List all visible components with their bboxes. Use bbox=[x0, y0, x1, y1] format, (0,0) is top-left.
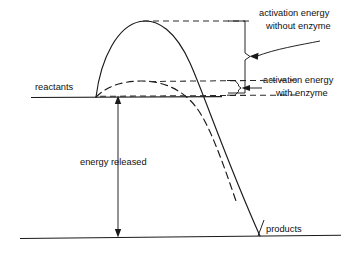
reactant-level-guideline bbox=[100, 95, 300, 96]
products-label: products bbox=[266, 224, 302, 234]
reactants-label: reactants bbox=[35, 82, 74, 92]
activation-curve-without-enzyme bbox=[96, 21, 260, 236]
energy-released-arrowhead-down bbox=[115, 229, 121, 238]
products-baseline bbox=[20, 235, 341, 238]
leader-arrow-without-enzyme bbox=[256, 41, 320, 57]
reaction-energy-profile-diagram: reactants products energy released activ… bbox=[0, 0, 359, 253]
leader-arrowhead-without-enzyme bbox=[250, 53, 259, 60]
bracket-activation-energy-without-enzyme bbox=[228, 21, 250, 93]
activation-energy-with-enzyme-label-line2: with enzyme bbox=[275, 88, 328, 98]
activation-energy-without-enzyme-label-line1: activation energy bbox=[259, 8, 330, 18]
energy-released-label: energy released bbox=[80, 157, 147, 167]
reactants-baseline bbox=[31, 97, 222, 98]
energy-diagram-container: reactants products energy released activ… bbox=[0, 0, 359, 253]
products-label-leader bbox=[258, 220, 264, 236]
activation-energy-without-enzyme-label-line2: without enzyme bbox=[265, 21, 331, 31]
leader-arrowhead-with-enzyme bbox=[242, 85, 251, 91]
activation-energy-with-enzyme-label-line1: activation energy bbox=[263, 75, 334, 85]
